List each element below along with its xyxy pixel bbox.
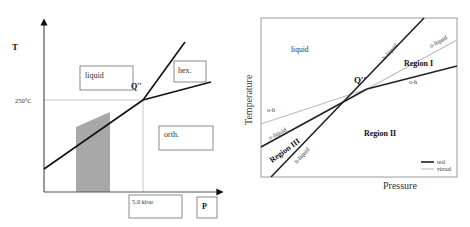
x-axis-label: P (202, 202, 207, 211)
legend-real-label: real (437, 159, 446, 165)
temp-marker-label: 250°C (15, 97, 32, 104)
x-axis-label: Pressure (383, 180, 417, 191)
o-h-left-label: o-h (267, 107, 275, 113)
orth-label: orth. (164, 130, 179, 139)
hex-label: hex. (178, 66, 192, 75)
region-1-label: Region I (404, 59, 433, 68)
liquid-region-label: liquid (291, 45, 309, 54)
right-phase-diagram: Temperature Pressure liquid Region I Reg… (243, 18, 457, 191)
region-2-label: Region II (364, 129, 396, 138)
y-axis-label: T (12, 42, 18, 52)
triple-point-label: Q′′ (131, 82, 142, 91)
liquid-label: liquid (85, 71, 104, 80)
plot-frame (261, 18, 457, 177)
shaded-region (76, 112, 110, 192)
o-h-right-label: o-h (409, 79, 417, 85)
y-axis-label: Temperature (243, 74, 254, 125)
left-phase-diagram: T 250°C liquid hex. orth. Q′′ 5.0 kbar P (12, 22, 220, 218)
x-axis-label-box (197, 197, 217, 218)
phase-diagrams: T 250°C liquid hex. orth. Q′′ 5.0 kbar P… (0, 0, 470, 227)
legend-virtual-label: virtual (437, 166, 452, 172)
pressure-marker-label: 5.0 kbar (132, 198, 154, 205)
triple-point-label: Q′′ (354, 75, 366, 85)
